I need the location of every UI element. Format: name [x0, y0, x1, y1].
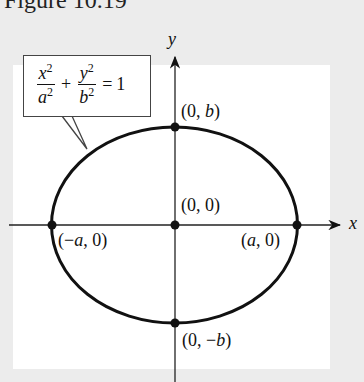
fraction-x: x2 a2 — [36, 62, 55, 107]
label-right-point: (a, 0) — [241, 231, 280, 249]
point-left — [48, 221, 57, 230]
label-left-point: (−a, 0) — [58, 231, 107, 249]
y-axis-label: y — [168, 30, 176, 48]
label-center-point: (0, 0) — [181, 196, 220, 214]
equation-callout: x2 a2 + y2 b2 = 1 — [23, 55, 151, 117]
label-bottom-point: (0, −b) — [182, 331, 231, 349]
point-right — [293, 221, 302, 230]
point-bottom — [171, 319, 180, 328]
label-top-point: (0, b) — [181, 102, 220, 120]
fraction-y: y2 b2 — [77, 62, 96, 107]
ellipse-equation: x2 a2 + y2 b2 = 1 — [34, 62, 125, 107]
x-axis-label: x — [349, 214, 357, 232]
callout-pointer — [62, 116, 87, 149]
point-center — [171, 221, 180, 230]
point-top — [171, 123, 180, 132]
